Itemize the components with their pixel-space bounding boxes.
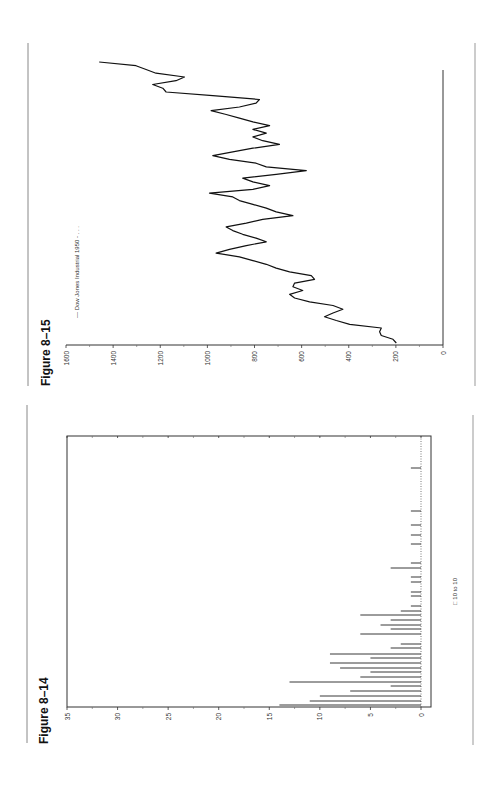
tick-label: 0	[440, 351, 447, 355]
tick-label: 1400	[110, 351, 117, 366]
value-axis-ticks: 05101520253035	[64, 436, 425, 720]
tick-label: 35	[64, 713, 71, 721]
tick-label: 30	[114, 713, 121, 721]
page-canvas: Figure 8–15 — Dow Jones Industrial 1950 …	[0, 0, 493, 801]
bars	[279, 468, 421, 705]
tick-label: 20	[215, 713, 222, 721]
figure-8-15: Figure 8–15 — Dow Jones Industrial 1950 …	[28, 43, 475, 386]
chart-legend: □ 10 to 10	[452, 577, 458, 605]
figure-title: Figure 8–15	[39, 319, 53, 386]
tick-label: 5	[367, 713, 374, 717]
tick-label: 600	[298, 351, 305, 362]
tick-label: 15	[266, 713, 273, 721]
tick-label: 1000	[204, 351, 211, 366]
tick-label: 0	[418, 713, 425, 717]
value-axis-ticks: 02004006008001000120014001600	[63, 345, 447, 365]
tick-label: 400	[345, 351, 352, 362]
chart-legend: — Dow Jones Industrial 1950 - . . .	[74, 226, 80, 318]
tick-label: 1600	[63, 351, 70, 366]
figure-8-14: Figure 8–14 05101520253035 □ 10 to 10	[27, 405, 473, 745]
tick-label: 200	[392, 351, 399, 362]
tick-label: 800	[251, 351, 258, 362]
dow-jones-line	[99, 62, 396, 343]
tick-label: 25	[165, 713, 172, 721]
tick-label: 10	[316, 713, 323, 721]
tick-label: 1200	[157, 351, 164, 366]
figure-title: Figure 8–14	[37, 677, 51, 744]
plot-frame	[67, 436, 431, 707]
